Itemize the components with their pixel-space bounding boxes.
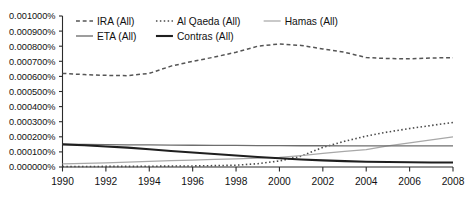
x-tick-label: 1998 bbox=[225, 176, 248, 187]
x-axis-tick-labels: 1990199219941996199820002002200420062008 bbox=[51, 176, 464, 187]
y-tick-label: 0.000600% bbox=[9, 72, 56, 82]
series-line-contras-all bbox=[63, 144, 454, 162]
x-axis-tick-marks bbox=[63, 167, 454, 172]
y-tick-label: 0.000200% bbox=[9, 132, 56, 142]
legend-label: IRA (All) bbox=[97, 16, 134, 27]
y-tick-label: 0.000800% bbox=[9, 42, 56, 52]
x-tick-label: 1994 bbox=[138, 176, 161, 187]
x-tick-label: 2006 bbox=[398, 176, 421, 187]
y-tick-label: 0.000700% bbox=[9, 57, 56, 67]
x-tick-label: 1996 bbox=[181, 176, 204, 187]
x-tick-label: 2002 bbox=[311, 176, 334, 187]
series-line-hamas-all bbox=[63, 137, 454, 164]
legend-label: Contras (All) bbox=[177, 31, 234, 42]
y-tick-label: 0.001000% bbox=[9, 11, 56, 21]
y-tick-label: 0.000300% bbox=[9, 117, 56, 127]
x-tick-label: 2004 bbox=[355, 176, 378, 187]
x-tick-label: 2000 bbox=[268, 176, 291, 187]
chart-legend: IRA (All)Al Qaeda (All)Hamas (All)ETA (A… bbox=[76, 16, 338, 42]
x-tick-label: 1990 bbox=[51, 176, 74, 187]
legend-label: Hamas (All) bbox=[285, 16, 338, 27]
chart-container: 0.001000%0.000900%0.000800%0.000700%0.00… bbox=[0, 0, 469, 199]
y-tick-label: 0.000000% bbox=[9, 162, 56, 172]
y-axis-tick-labels: 0.001000%0.000900%0.000800%0.000700%0.00… bbox=[9, 11, 56, 172]
x-tick-label: 1992 bbox=[95, 176, 118, 187]
x-tick-label: 2008 bbox=[442, 176, 465, 187]
y-tick-label: 0.000400% bbox=[9, 102, 56, 112]
series-lines bbox=[63, 44, 454, 167]
legend-label: ETA (All) bbox=[97, 31, 136, 42]
y-tick-label: 0.000100% bbox=[9, 147, 56, 157]
line-chart: 0.001000%0.000900%0.000800%0.000700%0.00… bbox=[0, 0, 469, 199]
legend-label: Al Qaeda (All) bbox=[177, 16, 240, 27]
y-tick-label: 0.000900% bbox=[9, 27, 56, 37]
y-tick-label: 0.000500% bbox=[9, 87, 56, 97]
series-line-ira-all bbox=[63, 44, 454, 76]
